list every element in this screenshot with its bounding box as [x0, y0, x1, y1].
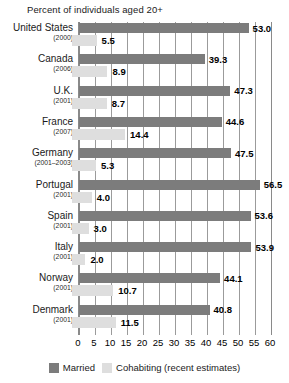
- bar-value-married: 56.5: [264, 180, 283, 190]
- x-tick-20: 20: [137, 337, 148, 348]
- x-tick-35: 35: [185, 337, 196, 348]
- country-year: (2001): [0, 252, 75, 261]
- bar-row: 47.38.7: [79, 85, 271, 116]
- bar-cohabiting-bleed: [72, 160, 79, 171]
- x-tick-10: 10: [105, 337, 116, 348]
- country-year: (2001): [0, 221, 75, 230]
- bar-rows: 53.05.539.38.947.38.744.614.447.55.356.5…: [79, 22, 271, 335]
- bar-row: 44.110.7: [79, 272, 271, 303]
- bar-value-cohabiting: 14.4: [130, 130, 149, 140]
- bar-cohabiting: [79, 192, 92, 203]
- category-label: United States(2000): [0, 22, 75, 53]
- bar-cohabiting: [79, 254, 85, 265]
- x-tick-45: 45: [217, 337, 228, 348]
- bar-married: [79, 273, 220, 283]
- category-label: Norway(2001): [0, 272, 75, 303]
- legend-label: Cohabiting (recent estimates): [116, 362, 240, 373]
- x-axis-ticks: 051015202530354045505560: [78, 337, 270, 350]
- bar-married: [79, 23, 249, 33]
- country-year: (2000): [0, 33, 75, 42]
- bar-value-married: 47.5: [235, 149, 254, 159]
- country-name: Germany: [0, 147, 75, 158]
- category-label: Canada(2006): [0, 53, 75, 84]
- bar-row: 56.54.0: [79, 179, 271, 210]
- bar-value-married: 47.3: [234, 86, 253, 96]
- bar-married: [79, 148, 231, 158]
- bar-value-cohabiting: 4.0: [97, 193, 110, 203]
- country-name: Norway: [0, 272, 75, 283]
- bar-value-married: 53.6: [255, 211, 274, 221]
- bar-married: [79, 211, 251, 221]
- bar-cohabiting: [79, 223, 89, 234]
- bar-cohabiting-bleed: [72, 66, 79, 77]
- x-tick-40: 40: [201, 337, 212, 348]
- country-name: Spain: [0, 210, 75, 221]
- bar-value-married: 39.3: [209, 55, 228, 65]
- x-tick-0: 0: [75, 337, 80, 348]
- bar-value-cohabiting: 5.5: [102, 36, 115, 46]
- bar-value-cohabiting: 11.5: [121, 318, 139, 328]
- bar-married: [79, 86, 230, 96]
- bar-value-cohabiting: 8.9: [112, 67, 125, 77]
- country-year: (2007): [0, 127, 75, 136]
- bar-cohabiting-bleed: [72, 317, 79, 328]
- legend-item[interactable]: Married: [49, 362, 95, 373]
- bar-cohabiting: [79, 285, 113, 296]
- bar-chart: Percent of individuals aged 20+ United S…: [0, 0, 289, 383]
- legend-item[interactable]: Cohabiting (recent estimates): [102, 362, 240, 373]
- bar-row: 40.811.5: [79, 304, 271, 335]
- bar-row: 47.55.3: [79, 147, 271, 178]
- bar-cohabiting: [79, 160, 96, 171]
- bar-cohabiting-bleed: [72, 254, 79, 265]
- category-label: Denmark(2001): [0, 304, 75, 335]
- bar-value-married: 40.8: [214, 305, 233, 315]
- country-year: (2001): [0, 283, 75, 292]
- category-label: Germany(2001–2003): [0, 147, 75, 178]
- category-label: U.K.(2001): [0, 85, 75, 116]
- country-year: (2001–2003): [0, 158, 75, 167]
- bar-cohabiting: [79, 66, 107, 77]
- bar-row: 39.38.9: [79, 53, 271, 84]
- x-tick-25: 25: [153, 337, 164, 348]
- country-year: (2001): [0, 190, 75, 199]
- bar-cohabiting-bleed: [72, 192, 79, 203]
- bar-row: 53.92.0: [79, 241, 271, 272]
- bar-cohabiting-bleed: [72, 285, 79, 296]
- bar-cohabiting: [79, 35, 97, 46]
- x-tick-15: 15: [121, 337, 132, 348]
- country-year: (2006): [0, 64, 75, 73]
- bar-value-married: 44.1: [224, 274, 243, 284]
- legend-swatch-icon: [102, 363, 112, 373]
- x-tick-30: 30: [169, 337, 180, 348]
- bar-married: [79, 180, 260, 190]
- bar-value-cohabiting: 10.7: [118, 286, 137, 296]
- bar-value-married: 53.9: [255, 243, 274, 253]
- bar-cohabiting: [79, 98, 107, 109]
- bar-value-married: 53.0: [253, 24, 272, 34]
- bar-row: 53.63.0: [79, 210, 271, 241]
- plot-area: 53.05.539.38.947.38.744.614.447.55.356.5…: [78, 22, 272, 335]
- bar-married: [79, 54, 205, 64]
- category-label: Spain(2001): [0, 210, 75, 241]
- country-year: (2001): [0, 96, 75, 105]
- bar-cohabiting-bleed: [72, 98, 79, 109]
- chart-title: Percent of individuals aged 20+: [27, 4, 163, 15]
- country-name: France: [0, 116, 75, 127]
- bar-cohabiting-bleed: [72, 35, 79, 46]
- country-name: Denmark: [0, 304, 75, 315]
- bar-cohabiting: [79, 129, 125, 140]
- category-axis-labels: United States(2000)Canada(2006)U.K.(2001…: [0, 22, 75, 335]
- bar-married: [79, 305, 210, 315]
- x-tick-55: 55: [249, 337, 260, 348]
- bar-row: 44.614.4: [79, 116, 271, 147]
- chart-legend: MarriedCohabiting (recent estimates): [0, 362, 289, 373]
- x-tick-60: 60: [265, 337, 276, 348]
- bar-cohabiting-bleed: [72, 223, 79, 234]
- bar-value-cohabiting: 5.3: [101, 161, 114, 171]
- bar-row: 53.05.5: [79, 22, 271, 53]
- legend-label: Married: [63, 362, 95, 373]
- bar-cohabiting-bleed: [72, 129, 79, 140]
- bar-married: [79, 242, 251, 252]
- country-name: United States: [0, 22, 75, 33]
- bar-married: [79, 117, 222, 127]
